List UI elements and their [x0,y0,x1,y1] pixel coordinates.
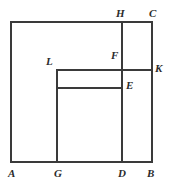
vertex-label-C: C [149,8,156,19]
vertex-label-B: B [147,168,154,179]
vertex-label-H: H [116,8,125,19]
geometry-figure: HCFLKEAGDB [0,0,175,188]
vertex-label-A: A [8,168,15,179]
vertex-label-G: G [54,168,62,179]
geometry-figure-canvas [0,0,175,188]
vertex-label-F: F [111,50,118,61]
vertex-label-D: D [118,168,126,179]
vertex-label-E: E [126,80,133,91]
vertex-label-K: K [155,63,162,74]
vertex-label-L: L [46,56,53,67]
